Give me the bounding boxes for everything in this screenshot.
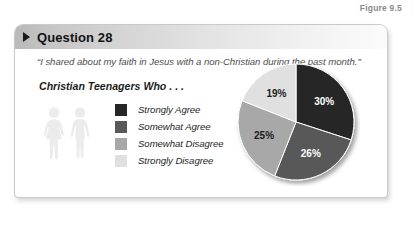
pie-slice-label: 30% <box>314 96 334 107</box>
pie-slice-label: 19% <box>266 88 286 99</box>
triangle-right-icon <box>23 32 30 42</box>
legend-swatch-icon <box>115 104 127 116</box>
pie-slices <box>238 64 354 180</box>
pie-slice-label: 25% <box>254 130 274 141</box>
legend-item-label: Somewhat Disagree <box>138 138 224 149</box>
two-people-icon <box>37 103 99 165</box>
legend-item[interactable]: Somewhat Disagree <box>115 135 224 152</box>
legend-swatch-icon <box>115 155 127 167</box>
legend-swatch-icon <box>115 121 127 133</box>
chart-legend: Strongly Agree Somewhat Agree Somewhat D… <box>115 101 224 169</box>
legend-swatch-icon <box>115 138 127 150</box>
figure-label: Figure 9.5 <box>360 3 402 13</box>
card-header: Question 28 <box>15 25 387 49</box>
legend-item[interactable]: Strongly Agree <box>115 101 224 118</box>
page-title: Question 28 <box>37 30 113 45</box>
pie-slice-label: 26% <box>301 148 321 159</box>
legend-item[interactable]: Strongly Disagree <box>115 152 224 169</box>
legend-item-label: Strongly Disagree <box>138 155 213 166</box>
chart-subheading: Christian Teenagers Who . . . <box>39 80 184 92</box>
legend-item[interactable]: Somewhat Agree <box>115 118 224 135</box>
pie-chart: 30%26%25%19% <box>236 62 360 186</box>
legend-item-label: Somewhat Agree <box>138 121 211 132</box>
legend-item-label: Strongly Agree <box>138 104 200 115</box>
